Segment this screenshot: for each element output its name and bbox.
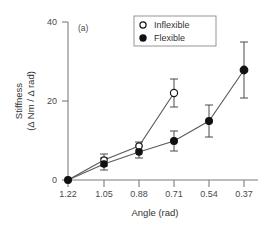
- x-tick-label-122: 1.22: [59, 189, 77, 199]
- y-tick-label-40: 40: [47, 17, 57, 27]
- y-tick-label-0: 0: [52, 175, 57, 185]
- stiffness-vs-angle-figure: 0 20 40 1.22 1.05 0.88 0.71 0.54 0.37 An…: [0, 0, 276, 229]
- flexible-series-line: [68, 70, 244, 180]
- y-tick-labels: 0 20 40: [47, 17, 57, 185]
- legend-marker-flexible-icon: [140, 35, 146, 41]
- data-point-flexible-105: [101, 161, 107, 167]
- legend-label-inflexible: Inflexible: [154, 20, 190, 30]
- x-tick-label-054: 0.54: [200, 189, 218, 199]
- panel-label: (a): [78, 23, 89, 33]
- y-tick-marks: [62, 22, 68, 180]
- legend-label-flexible: Flexible: [154, 33, 185, 43]
- x-tick-labels: 1.22 1.05 0.88 0.71 0.54 0.37: [59, 189, 253, 199]
- x-axis-title: Angle (rad): [132, 207, 179, 218]
- legend: Inflexible Flexible: [134, 16, 216, 46]
- data-point-inflexible-071: [170, 89, 177, 96]
- data-point-flexible-054: [206, 118, 213, 125]
- x-tick-label-088: 0.88: [130, 189, 148, 199]
- chart-svg: 0 20 40 1.22 1.05 0.88 0.71 0.54 0.37 An…: [0, 0, 276, 229]
- y-axis-title-line1: Stiffness: [13, 83, 24, 120]
- flexible-data-points: [65, 66, 248, 183]
- y-tick-label-20: 20: [47, 96, 57, 106]
- data-point-flexible-037: [240, 66, 248, 74]
- data-point-origin: [65, 177, 72, 184]
- inflexible-series-line: [68, 93, 174, 180]
- x-tick-marks: [68, 180, 244, 187]
- x-tick-label-037: 0.37: [235, 189, 253, 199]
- data-point-flexible-071: [171, 138, 178, 145]
- data-point-flexible-088: [136, 149, 142, 155]
- x-tick-label-071: 0.71: [165, 189, 183, 199]
- y-axis-title-line2: (Δ Nm / Δ rad): [25, 71, 36, 131]
- x-tick-label-105: 1.05: [95, 189, 113, 199]
- legend-marker-inflexible-icon: [140, 22, 146, 28]
